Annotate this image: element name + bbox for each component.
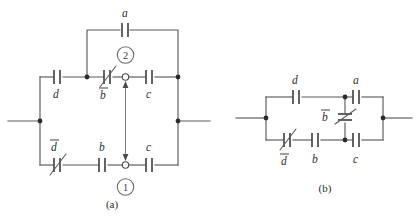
cap-a-label: a	[353, 74, 359, 86]
cap-c-upper	[146, 70, 152, 84]
cap-c-lower	[146, 158, 152, 172]
panel-a-ring-marker-2: 2	[117, 47, 133, 63]
svg-text:b: b	[322, 111, 328, 123]
cap-b-lower-label: b	[99, 141, 105, 153]
panel-b-bottom-junction-dot	[343, 138, 348, 143]
panel-a-branch-junction-dot	[85, 75, 90, 80]
cap-b	[312, 133, 318, 147]
panel-b-top-junction-dot	[343, 95, 348, 100]
cap-b-lower	[99, 158, 105, 172]
panel-b-caption: (b)	[319, 182, 332, 195]
cap-d	[293, 90, 299, 104]
cap-dbar-label: d	[280, 154, 289, 167]
panel-a-arrowhead-down	[123, 154, 129, 161]
panel-a-arrowhead-up	[123, 81, 129, 88]
circuit-diagram-svg: a d b c	[0, 0, 418, 222]
panel-a: a d b c	[8, 7, 210, 211]
panel-a-left-terminal-node	[38, 119, 43, 124]
svg-text:b: b	[100, 89, 106, 101]
panel-a-right-terminal-node	[176, 119, 181, 124]
panel-a-caption: (a)	[106, 198, 119, 211]
cap-c	[353, 133, 359, 147]
panel-b-left-terminal-node	[264, 116, 269, 121]
panel-a-ring-marker-1: 1	[117, 179, 133, 195]
cap-bbar-upper-label: b	[99, 88, 108, 101]
svg-text:2: 2	[123, 50, 128, 61]
circuit-figure: a d b c	[0, 0, 418, 222]
panel-a-branch-a-right	[130, 30, 178, 77]
cap-b-label: b	[312, 153, 318, 165]
panel-a-branch-a-left	[87, 30, 120, 77]
svg-text:1: 1	[123, 182, 128, 193]
panel-b-right-terminal-node	[381, 116, 386, 121]
cap-c-lower-label: c	[146, 141, 151, 153]
cap-bbar-label: b	[321, 110, 330, 123]
cap-d-upper	[54, 70, 60, 84]
cap-d-upper-label: d	[53, 88, 59, 100]
cap-a-top-label: a	[122, 7, 128, 19]
panel-a-upper-right-junction-dot	[176, 75, 181, 80]
cap-a-top	[122, 23, 128, 37]
cap-d-label: d	[292, 74, 298, 86]
panel-a-node-1-terminal	[122, 162, 128, 168]
cap-dbar-lower-label: d	[50, 140, 59, 153]
panel-b: d a b d	[236, 74, 412, 195]
cap-a	[353, 90, 359, 104]
panel-a-node-2-terminal	[122, 74, 128, 80]
svg-text:d: d	[281, 155, 287, 167]
cap-c-upper-label: c	[146, 88, 151, 100]
cap-c-label: c	[353, 153, 358, 165]
svg-text:d: d	[51, 141, 57, 153]
